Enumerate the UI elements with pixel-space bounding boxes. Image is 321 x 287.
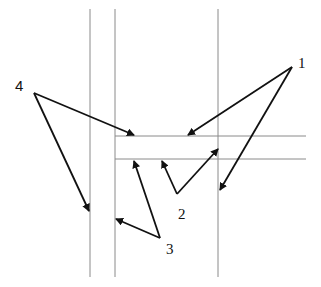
arrow-4-8 bbox=[34, 93, 134, 135]
arrow-3-6 bbox=[134, 161, 160, 238]
arrow-1-2 bbox=[220, 67, 292, 190]
diagram-canvas bbox=[0, 0, 321, 287]
arrow-2-3 bbox=[162, 161, 177, 194]
arrow-4-7 bbox=[34, 93, 89, 211]
label-4: 4 bbox=[15, 78, 23, 93]
arrow-3-5 bbox=[116, 219, 160, 238]
arrow-2-4 bbox=[177, 149, 218, 194]
label-2: 2 bbox=[178, 207, 186, 222]
callout-arrows bbox=[34, 67, 292, 238]
label-3: 3 bbox=[166, 242, 174, 257]
structure-lines bbox=[90, 9, 306, 277]
label-1: 1 bbox=[298, 56, 306, 71]
arrow-1-1 bbox=[188, 67, 292, 135]
